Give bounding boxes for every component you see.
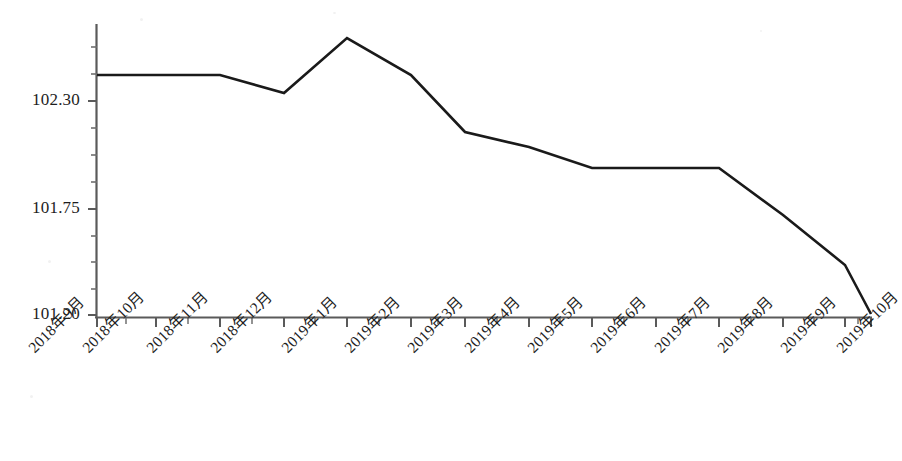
data-series-line: [97, 38, 871, 314]
y-tick-label: 102.30: [14, 90, 80, 110]
y-tick-label: 101.75: [14, 198, 80, 218]
